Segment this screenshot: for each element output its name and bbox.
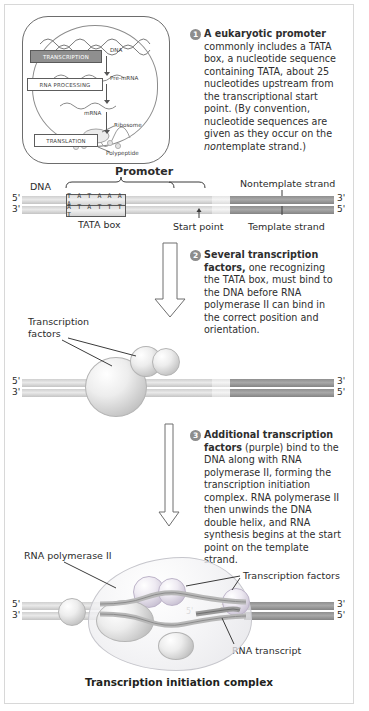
promoter-label: Promoter	[115, 166, 173, 178]
dna-bottom-right-3	[244, 612, 334, 620]
step-1: 1 A eukaryotic promoter commonly include…	[190, 28, 342, 153]
transcription-factor-small	[152, 348, 180, 376]
step-1-italic: non	[204, 141, 222, 152]
panel1-end-5p-right: 5'	[337, 204, 345, 214]
tata-box-sequence-bottom: A T A T T T T	[66, 205, 126, 217]
panel2-end-5p-right: 5'	[337, 387, 345, 397]
step-2: 2 Several transcription factors, one rec…	[190, 249, 342, 337]
additional-factor-c	[222, 588, 250, 616]
inset-label-pre-mrna: Pre-mRNA	[110, 75, 138, 81]
panel3-end-5p-left: 5'	[12, 599, 20, 609]
initiation-factor-left	[58, 598, 86, 626]
panel3-end-3p-right: 3'	[337, 599, 345, 609]
polymerase-lobe	[96, 600, 154, 642]
step-2-badge: 2	[190, 250, 201, 261]
inset-label-ribosome: Ribosome	[114, 122, 142, 128]
step-3-badge: 3	[190, 430, 201, 441]
panel2-end-5p-left: 5'	[12, 376, 20, 386]
rna-transcript-label: RNA transcript	[232, 645, 301, 657]
nontemplate-strand-label: Nontemplate strand	[240, 178, 335, 190]
inset-stage-translation: TRANSLATION	[34, 134, 98, 147]
dna-label: DNA	[30, 181, 51, 193]
panel2-end-3p-right: 3'	[337, 376, 345, 386]
step-1-text2: template strand.)	[222, 141, 306, 152]
panel3-end-3p-left: 3'	[12, 610, 20, 620]
inset-label-mrna: mRNA	[84, 110, 101, 116]
inset-label-dna: DNA	[110, 47, 122, 53]
inset-label-polypeptide: Polypeptide	[106, 150, 139, 156]
figure-page: TRANSCRIPTION RNA PROCESSING TRANSLATION…	[0, 0, 369, 711]
polymerase-lobe-lower	[158, 632, 194, 660]
inset-arrow-2	[106, 84, 107, 100]
transcription-factors-label-1: Transcription factors	[28, 316, 89, 339]
inset-stage-transcription: TRANSCRIPTION	[30, 50, 102, 63]
dna-top-right-3	[244, 602, 334, 610]
panel2-end-3p-left: 3'	[12, 387, 20, 397]
panel1-end-5p-left: 5'	[12, 193, 20, 203]
rna-polymerase-label: RNA polymerase II	[24, 550, 112, 562]
start-point-label: Start point	[173, 221, 223, 233]
dna-bottom-strand-2	[22, 389, 334, 397]
additional-factor-b	[158, 578, 186, 606]
figure-caption: Transcription initiation complex	[0, 676, 358, 688]
transcription-factors-label-2: Transcription factors	[243, 570, 340, 582]
inset-arrow-3	[106, 112, 107, 130]
template-strand-label: Template strand	[248, 221, 325, 233]
inset-arrow-1	[106, 56, 107, 72]
inset-stage-rna-processing: RNA PROCESSING	[27, 78, 103, 91]
step-3: 3 Additional transcription factors (purp…	[190, 429, 342, 567]
panel1-end-3p-left: 3'	[12, 204, 20, 214]
panel1-end-3p-right: 3'	[337, 193, 345, 203]
step-1-lead: A eukaryotic promoter	[204, 28, 326, 39]
panel3-end-5p-right: 5'	[337, 610, 345, 620]
step-3-text: (purple) bind to the DNA along with RNA …	[204, 442, 341, 566]
tf-label-line1: Transcription	[28, 316, 89, 327]
step-1-badge: 1	[190, 29, 201, 40]
tf-label-line2: factors	[28, 328, 61, 339]
tata-box-label: TATA box	[78, 219, 121, 231]
step-1-text: commonly includes a TATA box, a nucleoti…	[204, 41, 336, 140]
dna-top-strand-2	[22, 379, 334, 387]
cell-overview-inset: TRANSCRIPTION RNA PROCESSING TRANSLATION…	[22, 16, 170, 164]
